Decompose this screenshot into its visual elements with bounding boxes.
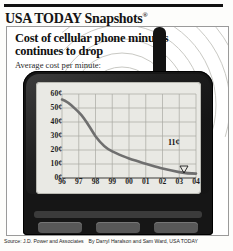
keypad-bar [34, 211, 202, 218]
line-chart: 60¢ 50¢ 40¢ 30¢ 20¢ 10¢ 0¢ 96 97 98 99 0… [36, 82, 201, 194]
antenna-icon [153, 27, 166, 75]
cellphone-icon: 60¢ 50¢ 40¢ 30¢ 20¢ 10¢ 0¢ 96 97 98 99 0… [23, 71, 213, 235]
masthead-title: USA TODAY Snapshots® [5, 8, 225, 23]
value-annotation: 11¢ [168, 139, 180, 147]
x-tick-label: 97 [72, 178, 86, 186]
masthead-rule [4, 4, 223, 7]
x-tick-label: 01 [139, 178, 153, 186]
y-tick-label: 30¢ [51, 132, 62, 140]
keypad-button [38, 222, 82, 233]
source-byline: By Darryl Haralson and Sam Ward, USA TOD… [89, 238, 198, 244]
x-tick-label: 00 [122, 178, 136, 186]
usa-today-snapshot: USA TODAY Snapshots® Cost of cellular ph… [0, 0, 233, 251]
x-tick-label: 99 [105, 178, 119, 186]
masthead-title-text: USA TODAY Snapshots [5, 11, 143, 26]
x-axis-labels: 96 97 98 99 00 01 02 03 04 [62, 178, 199, 192]
keypad-button [96, 222, 140, 233]
phone-keypad [34, 211, 202, 233]
x-tick-label: 02 [156, 178, 170, 186]
x-tick-label: 04 [189, 178, 203, 186]
y-tick-label: 10¢ [51, 160, 62, 168]
registered-mark: ® [143, 11, 148, 19]
x-tick-label: 03 [172, 178, 186, 186]
y-tick-label: 20¢ [51, 146, 62, 154]
source-credit: Source: J.D. Power and AssociatesBy Darr… [4, 238, 232, 244]
y-tick-label: 60¢ [51, 90, 62, 98]
y-tick-label: 40¢ [51, 118, 62, 126]
x-tick-label: 96 [55, 178, 69, 186]
y-tick-label: 50¢ [51, 104, 62, 112]
phone-screen: 60¢ 50¢ 40¢ 30¢ 20¢ 10¢ 0¢ 96 97 98 99 0… [36, 82, 201, 194]
x-tick-label: 98 [89, 178, 103, 186]
keypad-button [154, 222, 198, 233]
source-label: Source: J.D. Power and Associates [4, 238, 84, 244]
chart-subtitle: Average cost per minute: [15, 60, 165, 70]
snapshot-panel: Cost of cellular phone minutes continues… [6, 26, 229, 236]
